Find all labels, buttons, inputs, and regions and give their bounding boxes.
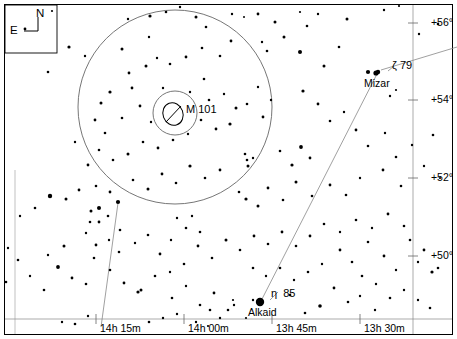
star-marker [384,132,386,134]
star-marker [339,231,341,233]
star-marker [116,200,120,204]
star-marker [295,245,298,248]
star-marker [175,182,178,185]
star-marker [161,173,164,176]
star-marker [104,132,107,135]
star-marker [148,14,151,17]
star-marker [367,241,370,244]
star-marker [67,45,70,48]
star-marker [208,99,211,102]
star-marker [97,206,101,210]
star-marker [309,235,312,238]
star-marker [262,116,265,119]
star-marker [338,46,341,49]
star-marker [311,195,314,198]
star-marker [267,243,270,246]
star-marker [329,120,332,123]
star-marker [270,99,272,101]
star-marker [244,197,247,200]
dec-label-52: +52° [431,172,453,183]
star-marker [304,312,307,315]
star-marker [127,18,129,20]
star-marker [371,227,373,229]
star-marker [228,122,231,125]
star-marker [107,215,110,218]
star-marker [295,181,298,184]
star-marker [147,234,150,237]
star-marker [355,219,358,222]
m101-label: M 101 [186,104,217,115]
star-marker [257,86,259,88]
star-marker [203,78,206,81]
star-marker [351,261,354,264]
star-marker [109,269,112,272]
ra-label-13h45m: 13h 45m [276,323,317,334]
star-marker [108,239,110,241]
star-marker [232,299,234,301]
star-marker [17,259,20,262]
star-marker [383,255,386,258]
star-marker [375,283,377,285]
star-marker [127,153,130,156]
star-marker [423,165,425,167]
star-marker [204,177,207,180]
star-marker [231,13,233,15]
star-marker [309,157,312,160]
star-marker [200,119,203,122]
star-marker [185,285,187,287]
star-marker [345,194,348,197]
star-marker [201,47,204,50]
star-marker [170,239,172,241]
star-marker [47,71,50,74]
star-marker [85,232,87,234]
star-marker [140,289,143,292]
star-marker [318,304,322,308]
star-marker [87,164,90,167]
star-marker [359,295,361,297]
star-marker [417,261,419,263]
star-marker [219,55,222,58]
star-marker [98,221,101,224]
star-marker [355,129,358,132]
mizar-greek: ζ [392,59,397,71]
sky-canvas [0,0,457,339]
star-marker [343,111,345,113]
star-marker [29,275,31,277]
star-marker [261,41,263,43]
star-marker [94,119,97,122]
star-marker [219,169,222,172]
alkaid-flamsteed: 85 [283,287,295,299]
star-marker [417,299,419,301]
star-marker [383,9,385,11]
star-marker [169,271,171,273]
star-marker [47,254,49,256]
star-marker [118,251,121,254]
star-marker [400,185,403,188]
star-marker [61,321,63,323]
star-marker [279,267,282,270]
alkaid-greek: η [271,287,277,299]
star-marker [389,297,392,300]
star-marker [227,309,230,312]
star-marker [121,117,124,120]
dec-label-56: +56° [431,17,453,28]
star-marker [199,304,202,307]
star-marker [245,317,247,319]
star-marker [279,150,282,153]
star-marker [283,36,286,39]
star-marker [139,105,142,108]
star-marker [235,107,238,110]
star-marker [112,159,115,162]
star-marker [123,282,126,285]
star-marker [253,235,256,238]
star-marker [188,164,191,167]
star-marker [423,249,426,252]
star-marker [257,13,260,16]
star-marker [187,133,189,135]
star-marker [189,91,191,93]
star-marker [266,50,269,53]
star-marker [145,65,148,68]
star-marker [134,242,136,244]
star-marker [333,287,336,290]
star-marker [95,244,98,247]
